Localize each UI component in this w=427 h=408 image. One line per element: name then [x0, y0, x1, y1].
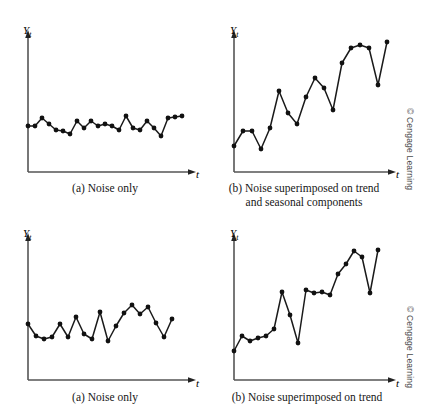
x-axis-label-bottom-right: t — [396, 377, 399, 389]
series-line-trend-seasonal-top — [234, 42, 387, 149]
figure-container: Yt t (a) Noise only Yt t — [0, 0, 427, 408]
caption-top-right-line1: (b) Noise superimposed on trend — [204, 181, 404, 195]
y-axis-label-bottom-left: Yt — [23, 227, 31, 242]
x-axis-label-bottom-left: t — [196, 377, 199, 389]
plot-top-left — [0, 0, 210, 205]
plot-bottom-left — [0, 205, 210, 408]
x-axis-label-top-left: t — [196, 168, 199, 180]
caption-bottom-right: (b) Noise superimposed on trend — [204, 390, 410, 404]
x-axis-arrowhead — [388, 377, 396, 383]
x-axis-arrowhead — [188, 169, 196, 175]
x-axis-label-top-right: t — [396, 168, 399, 180]
caption-top-left: (a) Noise only — [0, 181, 210, 195]
x-axis-arrowhead — [188, 377, 196, 383]
y-axis-label-top-right: Yt — [230, 24, 238, 39]
series-markers-trend-bottom — [232, 248, 381, 354]
caption-bottom-left: (a) Noise only — [0, 390, 210, 404]
y-axis-label-top-left: Yt — [23, 24, 31, 39]
panel-top-left: Yt t (a) Noise only — [0, 0, 210, 205]
panel-bottom-right: Yt t (b) Noise superimposed on trend — [210, 205, 410, 408]
y-axis-label-bottom-right: Yt — [230, 227, 238, 242]
series-markers-noise-only-top — [26, 114, 185, 139]
plot-bottom-right — [210, 205, 410, 408]
copyright-credit-top: © Cengage Learning — [405, 108, 415, 190]
x-axis-arrowhead — [388, 169, 396, 175]
series-line-trend-bottom — [234, 250, 378, 351]
plot-top-right — [210, 0, 410, 205]
copyright-credit-bottom: © Cengage Learning — [405, 306, 415, 388]
panel-bottom-left: Yt t (a) Noise only — [0, 205, 210, 408]
panel-top-right: Yt t (b) Noise superimposed on trend and… — [210, 0, 410, 205]
series-markers-trend-seasonal-top — [232, 40, 390, 152]
